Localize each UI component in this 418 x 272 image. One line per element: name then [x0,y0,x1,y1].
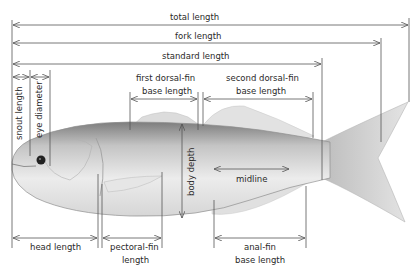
first-dorsal-label-1: first dorsal-fin [136,72,195,84]
eye-diameter-label: eye diameter [34,81,44,138]
body-depth-label: body depth [186,148,196,196]
anal-fin-label-2: base length [235,254,285,266]
midline-label: midline [236,173,267,185]
caudal-fin [322,102,408,222]
second-dorsal-label-1: second dorsal-fin [226,72,299,84]
pectoral-fin-label-2: length [122,254,149,266]
second-dorsal-label-2: base length [236,85,286,97]
snout-length-label: snout length [14,86,24,140]
head-length-label: head length [30,241,81,253]
fish-illustration [12,102,408,222]
fork-length-label: fork length [175,30,221,42]
standard-length-label: standard length [162,50,230,62]
anal-fin-label-1: anal-fin [244,241,276,253]
total-length-label: total length [170,11,219,23]
first-dorsal-label-2: base length [142,85,192,97]
eye [37,156,46,165]
pectoral-fin-label-1: pectoral-fin [110,241,159,253]
